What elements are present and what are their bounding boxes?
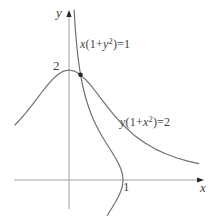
x-axis-tick-label-1: 1 <box>123 180 130 193</box>
curve2-equation-label: y(1+x2)=2 <box>120 116 170 128</box>
x-axis-label: x <box>200 181 206 194</box>
plot-canvas <box>0 0 216 217</box>
curve1-equation-label: x(1+y2)=1 <box>80 38 130 50</box>
y-axis-label: y <box>56 6 62 19</box>
function-plot-figure: y x 2 1 x(1+y2)=1 y(1+x2)=2 <box>0 0 216 217</box>
curve2-open-term: (1+ <box>126 115 143 129</box>
curve2-close-term: )=2 <box>153 115 170 129</box>
curve1-close-term: )=1 <box>113 37 130 51</box>
curve2-exponent: 2 <box>148 114 152 124</box>
curve1-exponent: 2 <box>108 36 112 46</box>
y-axis-tick-label-2: 2 <box>53 59 60 72</box>
curve1-open-term: (1+ <box>86 37 103 51</box>
